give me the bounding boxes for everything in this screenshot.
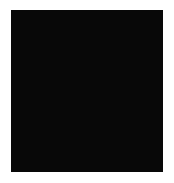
noise-texture-image — [11, 10, 163, 172]
figure-root — [0, 0, 174, 183]
